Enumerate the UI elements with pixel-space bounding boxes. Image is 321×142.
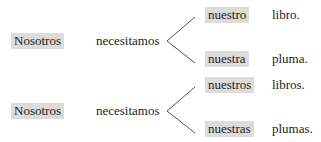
possessive-masculine-plural-highlight: nuestros — [205, 77, 254, 93]
noun-feminine-plural-text: plumas. — [272, 121, 313, 137]
noun-masculine-text: libro. — [272, 7, 300, 23]
possessive-feminine-highlight: nuestra — [205, 51, 249, 67]
noun-masculine-plural-text: libros. — [272, 77, 305, 93]
subject-highlight: Nosotros — [11, 103, 64, 119]
branch-bracket-icon — [160, 80, 200, 140]
possessive-masculine-highlight: nuestro — [205, 7, 249, 23]
noun-feminine-text: pluma. — [272, 51, 308, 67]
subject-highlight: Nosotros — [11, 33, 64, 49]
verb-text: necesitamos — [96, 103, 160, 119]
sentence-group-plural: Nosotros necesitamos nuestros libros. nu… — [0, 70, 321, 141]
branch-bracket-icon — [160, 10, 200, 70]
possessive-feminine-plural-highlight: nuestras — [205, 121, 254, 137]
verb-text: necesitamos — [96, 33, 160, 49]
sentence-group-singular: Nosotros necesitamos nuestro libro. nues… — [0, 0, 321, 71]
